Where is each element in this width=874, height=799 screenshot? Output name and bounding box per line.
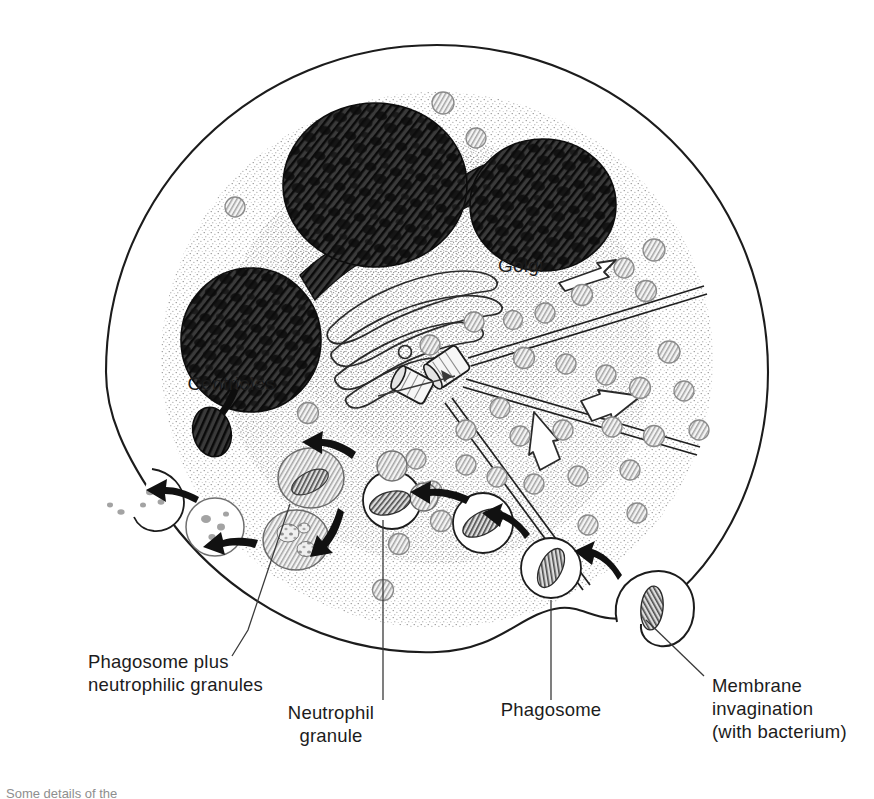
granule bbox=[643, 239, 665, 261]
granule bbox=[514, 348, 535, 369]
granule bbox=[504, 311, 523, 330]
phagosome-with-bacterium bbox=[521, 538, 581, 598]
label-membrane-invagination-line1: Membrane bbox=[712, 675, 802, 696]
label-phagosome: Phagosome bbox=[501, 699, 602, 720]
label-neutrophil-granule-line1: Neutrophil bbox=[288, 702, 374, 723]
granule bbox=[298, 403, 319, 424]
granule bbox=[420, 335, 440, 355]
granule bbox=[464, 312, 484, 332]
label-golgi: Golgi bbox=[498, 255, 543, 276]
granule bbox=[627, 503, 647, 523]
granule bbox=[572, 285, 593, 306]
granule bbox=[630, 378, 651, 399]
granule bbox=[487, 467, 507, 487]
label-phagosome-plus-granules-line1: Phagosome plus bbox=[88, 651, 229, 672]
figure-caption-clipped: Some details of the bbox=[6, 786, 117, 799]
granule bbox=[602, 417, 622, 437]
granule bbox=[524, 474, 544, 494]
granule bbox=[674, 381, 694, 401]
label-centrioles: Centrioles bbox=[187, 373, 275, 394]
granule bbox=[389, 534, 410, 555]
granule bbox=[620, 460, 640, 480]
granule bbox=[596, 365, 616, 385]
granule bbox=[568, 466, 588, 486]
granule bbox=[614, 258, 634, 278]
label-neutrophil-granule-line2: granule bbox=[299, 725, 362, 746]
granule bbox=[556, 354, 576, 374]
fusing-granule-top bbox=[377, 451, 407, 481]
granule bbox=[456, 420, 476, 440]
granule bbox=[431, 511, 452, 532]
granule bbox=[490, 398, 510, 418]
granule bbox=[644, 426, 665, 447]
membrane-invagination bbox=[616, 571, 694, 646]
granule bbox=[689, 420, 709, 440]
granule bbox=[535, 303, 555, 323]
granule bbox=[432, 92, 454, 114]
label-membrane-invagination-line3: (with bacterium) bbox=[712, 721, 847, 742]
granule bbox=[578, 515, 598, 535]
granule bbox=[466, 128, 486, 148]
label-phagosome-plus-granules-line2: neutrophilic granules bbox=[88, 674, 263, 695]
granule bbox=[636, 281, 657, 302]
granule bbox=[658, 341, 680, 363]
phagolysosome-digestion bbox=[278, 448, 344, 508]
granule bbox=[406, 449, 426, 469]
granule bbox=[553, 420, 573, 440]
granule bbox=[456, 455, 476, 475]
granule bbox=[225, 197, 245, 217]
granule bbox=[510, 426, 530, 446]
label-membrane-invagination-line2: invagination bbox=[712, 698, 813, 719]
